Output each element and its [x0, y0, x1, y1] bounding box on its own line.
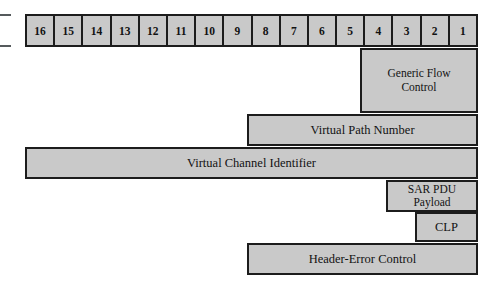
bit-cell-15: 15 [55, 16, 83, 45]
bit-cell-14: 14 [83, 16, 111, 45]
bit-cell-13: 13 [112, 16, 140, 45]
field-label-line: Virtual Channel Identifier [187, 156, 316, 170]
bit-cell-7: 7 [281, 16, 309, 45]
atm-cell-header-diagram: 16151413121110987654321 Generic FlowCont… [0, 0, 499, 288]
field-clp: CLP [415, 212, 478, 242]
field-virtual-channel-identifier: Virtual Channel Identifier [25, 147, 478, 179]
field-label-line: Control [388, 81, 451, 94]
ruler-bottom-tick [0, 45, 11, 47]
field-label-header-error-control: Header-Error Control [309, 252, 417, 266]
bit-cell-9: 9 [224, 16, 252, 45]
field-label-line: Payload [408, 196, 456, 209]
field-label-line: Virtual Path Number [310, 123, 414, 137]
field-label-sar-pdu-payload: SAR PDUPayload [408, 183, 456, 209]
bit-cell-2: 2 [422, 16, 450, 45]
field-label-line: Generic Flow [388, 67, 451, 80]
bit-cell-12: 12 [140, 16, 168, 45]
field-label-line: Header-Error Control [309, 252, 417, 266]
field-label-line: SAR PDU [408, 183, 456, 196]
bit-cell-8: 8 [253, 16, 281, 45]
bit-cell-3: 3 [393, 16, 421, 45]
field-sar-pdu-payload: SAR PDUPayload [386, 180, 478, 212]
bit-cell-11: 11 [168, 16, 196, 45]
bit-cell-5: 5 [337, 16, 365, 45]
field-label-virtual-channel-identifier: Virtual Channel Identifier [187, 156, 316, 170]
bit-cell-10: 10 [196, 16, 224, 45]
bit-cell-4: 4 [365, 16, 393, 45]
field-label-virtual-path-number: Virtual Path Number [310, 123, 414, 137]
field-label-generic-flow-control: Generic FlowControl [388, 67, 451, 93]
field-generic-flow-control: Generic FlowControl [360, 48, 478, 113]
bit-cell-1: 1 [450, 16, 476, 45]
field-header-error-control: Header-Error Control [247, 243, 478, 275]
bit-position-ruler: 16151413121110987654321 [25, 14, 478, 47]
bit-cell-16: 16 [27, 16, 55, 45]
field-label-line: CLP [435, 220, 458, 234]
field-virtual-path-number: Virtual Path Number [247, 114, 478, 146]
bit-cell-6: 6 [309, 16, 337, 45]
field-label-clp: CLP [435, 220, 458, 234]
ruler-top-tick [0, 14, 11, 16]
